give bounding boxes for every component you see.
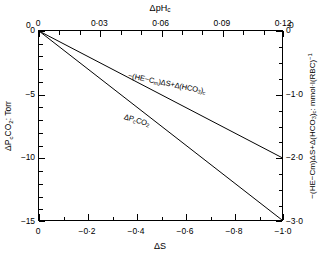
top-tick-label-0: 0	[36, 19, 41, 28]
top-axis-title: ΔpHc	[150, 4, 171, 14]
left-major-tick	[39, 221, 45, 222]
left-tick-label-3: −15	[21, 217, 35, 226]
left-tick-label-1: −5	[26, 89, 36, 98]
bottom-axis-title: ΔS	[154, 242, 166, 251]
bottom-tick-label-0: 0	[36, 227, 41, 236]
right-tick-label-1: −1·0	[286, 89, 303, 98]
bottom-tick-label-3: −0·6	[177, 227, 194, 236]
top-tick-label-1: 0·03	[91, 19, 108, 28]
left-tick-label-2: −10	[21, 153, 35, 162]
bottom-major-tick	[283, 214, 284, 220]
left-axis-title: ΔPcCO2: Torr	[4, 101, 13, 151]
top-tick-label-2: 0·06	[152, 19, 169, 28]
bottom-tick-label-2: −0·4	[128, 227, 145, 236]
figure-container: ΔpHc 0 0 0 0·03 0·06 0·09 0·12 ΔPcCO2: T…	[0, 0, 324, 258]
plot-area	[38, 30, 283, 221]
right-tick-label-0: 0	[286, 26, 291, 35]
bicarbonate-series-line	[39, 31, 282, 158]
top-tick-label-3: 0·09	[213, 19, 230, 28]
right-major-tick	[276, 221, 282, 222]
bottom-tick-label-5: −1·0	[275, 227, 292, 236]
top-major-tick	[283, 31, 284, 37]
right-tick-label-3: −3·0	[286, 217, 303, 226]
right-axis-title: −(HE−Cm)ΔS+Δ(HCO3)c: mmol·l(RBC)−1	[308, 53, 317, 198]
data-lines	[39, 31, 282, 220]
bottom-tick-label-4: −0·8	[226, 227, 243, 236]
right-tick-label-2: −2·0	[286, 153, 303, 162]
left-tick-label-0: 0	[30, 26, 35, 35]
pcco2-series-line	[39, 31, 282, 220]
bottom-tick-label-1: −0·2	[79, 227, 96, 236]
